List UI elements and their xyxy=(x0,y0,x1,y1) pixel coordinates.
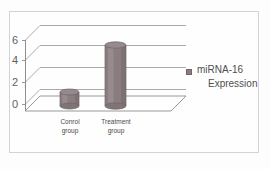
chart-figure: 6 4 2 0 Conrol group Treatment group miR… xyxy=(0,0,271,169)
bar-treatment-group-shine xyxy=(108,45,114,106)
bar-treatment-group-top-cap xyxy=(105,42,126,48)
y-tick-label-2: 2 xyxy=(4,76,18,88)
y-tick-label-0: 0 xyxy=(4,98,18,110)
gridline-5-depth xyxy=(25,46,40,61)
x-category-label-conrol-group-line1: Conrol xyxy=(47,117,93,126)
x-category-label-treatment-group: Treatment group xyxy=(93,117,139,135)
gridline-1-depth xyxy=(25,90,40,105)
x-category-label-conrol-group: Conrol group xyxy=(47,117,93,135)
legend-label-line-1: miRNA-16 xyxy=(197,64,243,75)
gridline-7-depth xyxy=(25,26,40,41)
x-category-label-treatment-group-line1: Treatment xyxy=(93,117,139,126)
legend-swatch-icon xyxy=(186,69,192,75)
bar-treatment-group-shadow xyxy=(121,45,126,106)
x-category-label-treatment-group-line2: group xyxy=(93,126,139,135)
y-tick-label-6: 6 xyxy=(4,34,18,46)
bar-conrol-group xyxy=(60,89,79,109)
bar-conrol-group-bottom-cap xyxy=(60,103,79,109)
legend-label-line-2: Expression xyxy=(208,78,257,89)
y-axis-ticks xyxy=(22,41,26,105)
bar-conrol-group-top-cap xyxy=(60,89,79,95)
bar-treatment-group-bottom-cap xyxy=(105,103,126,109)
y-tick-label-4: 4 xyxy=(4,54,18,66)
bar-treatment-group xyxy=(105,42,126,109)
x-category-label-conrol-group-line2: group xyxy=(47,126,93,135)
gridline-3-depth xyxy=(25,68,40,83)
